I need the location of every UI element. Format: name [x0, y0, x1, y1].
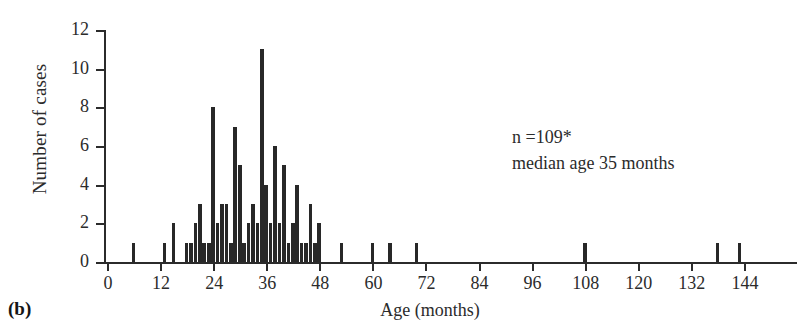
- histogram-bar: [269, 223, 273, 262]
- histogram-bar: [207, 243, 211, 262]
- histogram-bar: [291, 223, 295, 262]
- x-tick: [638, 264, 640, 271]
- histogram-bar: [225, 204, 229, 262]
- y-tick: [96, 185, 104, 187]
- histogram-bar: [313, 243, 317, 262]
- panel-label: (b): [8, 298, 31, 320]
- x-tick-label: 96: [511, 273, 555, 294]
- histogram-bar: [132, 243, 136, 262]
- x-tick: [425, 264, 427, 271]
- histogram-bar: [264, 185, 268, 262]
- histogram-bar: [242, 243, 246, 262]
- x-tick: [585, 264, 587, 271]
- x-tick-label: 48: [298, 273, 342, 294]
- histogram-bar: [198, 204, 202, 262]
- histogram-bar: [185, 243, 189, 262]
- y-tick: [96, 69, 104, 71]
- histogram-bar: [220, 204, 224, 262]
- histogram-bar: [216, 223, 220, 262]
- y-tick-label: 10: [55, 58, 89, 79]
- x-tick-label: 108: [564, 273, 608, 294]
- y-axis-spine: [104, 30, 106, 263]
- histogram-bar: [300, 243, 304, 262]
- histogram-bar: [273, 146, 277, 262]
- histogram-bar: [583, 243, 587, 262]
- y-tick-label: 12: [55, 19, 89, 40]
- histogram-bars: [107, 30, 797, 262]
- x-tick-label: 24: [192, 273, 236, 294]
- histogram-bar: [309, 204, 313, 262]
- x-tick-label: 36: [245, 273, 289, 294]
- y-tick-label: 0: [55, 251, 89, 272]
- y-tick: [96, 223, 104, 225]
- histogram-bar: [415, 243, 419, 262]
- x-tick: [266, 264, 268, 271]
- histogram-bar: [247, 223, 251, 262]
- histogram-bar: [738, 243, 742, 262]
- histogram-bar: [163, 243, 167, 262]
- histogram-bar: [371, 243, 375, 262]
- plot-area: 024681012 01224364860728496108120132144: [107, 30, 797, 262]
- histogram-bar: [317, 223, 321, 262]
- x-tick-label: 84: [458, 273, 502, 294]
- x-tick: [160, 264, 162, 271]
- x-axis-title: Age (months): [330, 300, 530, 321]
- histogram-bar: [172, 223, 176, 262]
- histogram-bar: [194, 223, 198, 262]
- histogram-bar: [304, 243, 308, 262]
- x-tick: [532, 264, 534, 271]
- y-axis-title: Number of cases: [29, 29, 51, 229]
- histogram-bar: [716, 243, 720, 262]
- x-tick: [319, 264, 321, 271]
- y-tick-label: 6: [55, 135, 89, 156]
- x-tick-label: 12: [139, 273, 183, 294]
- x-tick-label: 0: [86, 273, 130, 294]
- histogram-bar: [295, 185, 299, 262]
- y-tick: [96, 146, 104, 148]
- x-tick-label: 72: [404, 273, 448, 294]
- histogram-bar: [211, 107, 215, 262]
- histogram-bar: [287, 243, 291, 262]
- y-tick: [96, 107, 104, 109]
- x-tick-label: 60: [351, 273, 395, 294]
- x-tick: [744, 264, 746, 271]
- histogram-bar: [340, 243, 344, 262]
- histogram-bar: [202, 243, 206, 262]
- x-tick: [691, 264, 693, 271]
- histogram-bar: [282, 165, 286, 262]
- x-tick-label: 144: [723, 273, 767, 294]
- histogram-bar: [189, 243, 193, 262]
- histogram-bar: [260, 49, 264, 262]
- x-tick: [372, 264, 374, 271]
- histogram-bar: [256, 223, 260, 262]
- y-tick-label: 8: [55, 96, 89, 117]
- y-tick-label: 4: [55, 174, 89, 195]
- x-axis-spine: [104, 262, 797, 264]
- histogram-bar: [238, 165, 242, 262]
- histogram-bar: [388, 243, 392, 262]
- y-tick: [96, 30, 104, 32]
- x-tick: [479, 264, 481, 271]
- histogram-bar: [251, 204, 255, 262]
- x-tick: [213, 264, 215, 271]
- histogram-bar: [233, 127, 237, 262]
- histogram-bar: [278, 223, 282, 262]
- x-tick: [107, 264, 109, 271]
- x-tick-label: 120: [617, 273, 661, 294]
- x-tick-label: 132: [670, 273, 714, 294]
- histogram-bar: [229, 243, 233, 262]
- figure-panel-b: Number of cases Age (months) (b) n =109*…: [0, 0, 806, 336]
- y-tick-label: 2: [55, 212, 89, 233]
- y-tick: [96, 262, 104, 264]
